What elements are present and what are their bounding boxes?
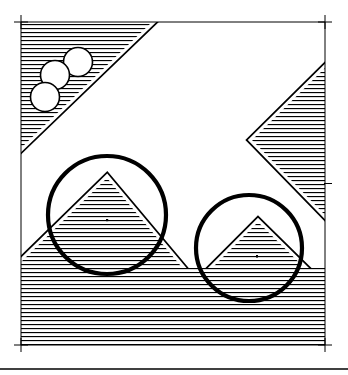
hatched lower plain bbox=[21, 268, 325, 345]
artwork-canvas bbox=[0, 0, 348, 375]
ink speck in left peak bbox=[106, 219, 108, 221]
small white circle lower bbox=[31, 83, 60, 112]
composition-svg bbox=[0, 0, 348, 375]
ink speck in right slope bbox=[256, 255, 258, 258]
